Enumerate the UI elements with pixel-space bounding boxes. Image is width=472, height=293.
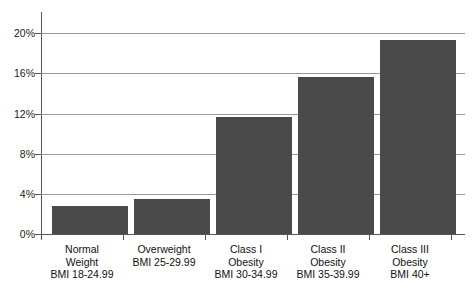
category-label-line-2: BMI 25-29.99 xyxy=(123,256,205,269)
category-label-line-3: BMI 18-24.99 xyxy=(41,268,123,281)
category-label-line-2: Obesity xyxy=(369,256,451,269)
bar-class-iii-obesity xyxy=(380,40,456,234)
category-label-line-1: Class III xyxy=(369,243,451,256)
y-axis-label-0: 0% xyxy=(1,229,35,240)
y-tick-8 xyxy=(35,154,41,155)
bar-class-i-obesity xyxy=(216,117,292,234)
category-label-line-1: Class I xyxy=(205,243,287,256)
x-tick-3 xyxy=(287,234,288,240)
category-label-overweight: Overweight BMI 25-29.99 xyxy=(123,243,205,268)
y-tick-12 xyxy=(35,114,41,115)
category-label-normal-weight: Normal Weight BMI 18-24.99 xyxy=(41,243,123,281)
category-label-line-1: Overweight xyxy=(123,243,205,256)
bar-normal-weight xyxy=(52,206,128,234)
y-tick-20 xyxy=(35,33,41,34)
bar-class-ii-obesity xyxy=(298,77,374,234)
y-tick-16 xyxy=(35,73,41,74)
category-label-class-ii-obesity: Class II Obesity BMI 35-39.99 xyxy=(287,243,369,281)
gridline-20 xyxy=(41,33,465,34)
y-tick-4 xyxy=(35,194,41,195)
category-label-line-2: Obesity xyxy=(205,256,287,269)
y-axis-label-12: 12% xyxy=(1,109,35,120)
bar-overweight xyxy=(134,199,210,234)
y-axis-label-4: 4% xyxy=(1,189,35,200)
category-label-line-3: BMI 30-34.99 xyxy=(205,268,287,281)
category-label-line-2: Weight xyxy=(41,256,123,269)
x-tick-0 xyxy=(41,234,42,240)
y-axis-label-20: 20% xyxy=(1,28,35,39)
bar-chart: 20% 16% 12% 8% 4% 0% Normal Weight BMI 1… xyxy=(0,0,472,293)
y-axis-label-8: 8% xyxy=(1,149,35,160)
category-label-line-2: Obesity xyxy=(287,256,369,269)
category-label-line-3: BMI 40+ xyxy=(369,268,451,281)
x-tick-4 xyxy=(369,234,370,240)
x-tick-2 xyxy=(205,234,206,240)
plot-area xyxy=(41,12,465,234)
x-tick-1 xyxy=(123,234,124,240)
category-label-class-iii-obesity: Class III Obesity BMI 40+ xyxy=(369,243,451,281)
x-tick-5 xyxy=(451,234,452,240)
category-label-line-1: Class II xyxy=(287,243,369,256)
category-label-line-3: BMI 35-39.99 xyxy=(287,268,369,281)
x-axis-line xyxy=(41,234,465,235)
category-label-class-i-obesity: Class I Obesity BMI 30-34.99 xyxy=(205,243,287,281)
y-axis-label-16: 16% xyxy=(1,68,35,79)
category-label-line-1: Normal xyxy=(41,243,123,256)
